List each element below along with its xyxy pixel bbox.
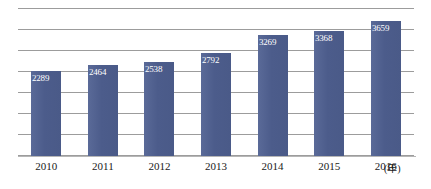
bar: 2792	[201, 53, 231, 156]
gridline	[18, 29, 414, 30]
bar: 3368	[314, 31, 344, 156]
gridline	[18, 50, 414, 51]
chart-title	[0, 0, 431, 2]
bar-value-label: 2538	[145, 64, 162, 74]
bar-value-label: 3269	[259, 37, 276, 47]
bar-value-label: 2289	[32, 73, 49, 83]
gridline	[18, 8, 414, 9]
x-axis-tick-label: 2012	[131, 160, 187, 172]
bar-value-label: 2792	[202, 55, 219, 65]
x-axis-tick-label: 2015	[301, 160, 357, 172]
bar-value-label: 3659	[372, 23, 389, 33]
bar: 3659	[371, 21, 401, 156]
bar-chart: 2289246425382792326933683659 (年) 2010201…	[0, 0, 431, 189]
x-axis-tick-label: 2013	[188, 160, 244, 172]
x-axis-tick-label: 2011	[75, 160, 131, 172]
bar: 3269	[258, 35, 288, 156]
bar-value-label: 2464	[89, 67, 106, 77]
x-axis-tick-label: 2014	[245, 160, 301, 172]
bar: 2289	[31, 71, 61, 156]
plot-area: 2289246425382792326933683659	[18, 8, 414, 156]
x-axis-line	[18, 156, 416, 157]
x-axis-tick-label: 2010	[18, 160, 74, 172]
bar: 2464	[88, 65, 118, 156]
x-axis-tick-label: 2016	[358, 160, 414, 172]
bar-value-label: 3368	[315, 33, 332, 43]
bar: 2538	[144, 62, 174, 156]
